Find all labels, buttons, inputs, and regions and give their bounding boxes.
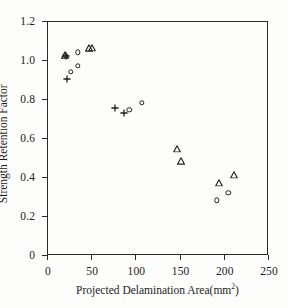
x-tick-label-0: 0 [45,266,51,278]
data-point-plus [111,104,119,112]
data-point-triangle [230,171,238,178]
y-tick-label-1.0: 1.0 [20,55,35,67]
data-point-triangle [215,179,223,186]
x-tick-250: 250 [268,255,269,260]
data-point-circle [139,100,144,105]
x-tick-label-100: 100 [128,266,146,278]
data-point-circle [68,69,73,74]
data-point-triangle [85,45,93,52]
x-axis-title-base: Projected Delamination Area(mm [76,284,231,296]
x-tick-label-50: 50 [86,266,98,278]
y-tick-0.2: 0.2 [42,216,47,217]
data-point-triangle [61,51,69,58]
y-tick-0.4: 0.4 [42,177,47,178]
data-point-triangle [88,44,96,51]
y-tick-label-0: 0 [29,250,35,262]
x-tick-0: 0 [47,255,48,260]
y-tick-label-0.4: 0.4 [20,172,35,184]
y-tick-label-0.6: 0.6 [20,133,35,145]
y-tick-0.8: 0.8 [42,99,47,100]
data-point-circle [127,107,132,112]
data-point-circle [75,63,80,68]
data-point-plus [63,75,71,83]
data-point-circle [63,53,68,58]
y-tick-label-1.2: 1.2 [20,16,35,28]
y-tick-label-0.2: 0.2 [20,211,35,223]
scatter-chart-figure: 00.20.40.60.81.01.2 050100150200250 Proj… [0,0,288,308]
y-axis-title: Strength Retention Factor [0,84,10,203]
y-tick-1.0: 1.0 [42,60,47,61]
x-tick-150: 150 [180,255,181,260]
y-tick-1.2: 1.2 [42,21,47,22]
x-tick-100: 100 [135,255,136,260]
y-tick-label-0.8: 0.8 [20,94,35,106]
y-tick-0.6: 0.6 [42,138,47,139]
data-point-plus [120,109,128,117]
x-axis-title-tail: ) [235,284,239,296]
data-point-circle [226,190,231,195]
x-tick-label-250: 250 [260,266,278,278]
x-tick-200: 200 [224,255,225,260]
x-tick-label-150: 150 [172,266,190,278]
data-point-triangle [173,145,181,152]
x-tick-label-200: 200 [216,266,234,278]
plot-area: 00.20.40.60.81.01.2 050100150200250 [47,21,268,255]
data-point-circle [214,198,219,203]
data-point-circle [75,49,80,54]
data-point-triangle [177,158,185,165]
data-point-plus [62,52,70,60]
x-tick-50: 50 [91,255,92,260]
x-axis-title: Projected Delamination Area(mm2) [47,285,268,297]
